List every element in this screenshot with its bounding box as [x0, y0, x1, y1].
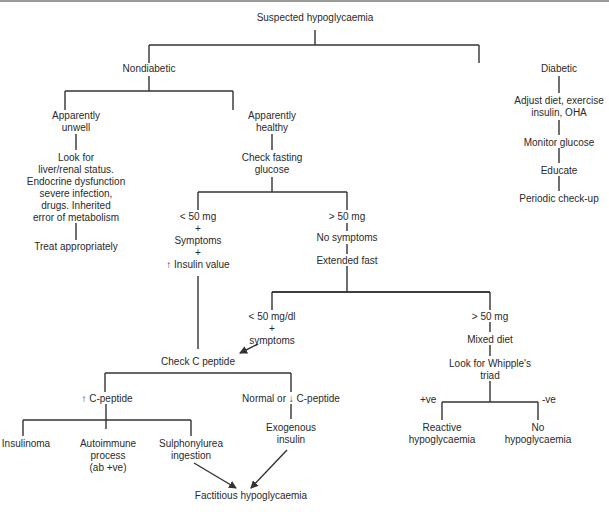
node-treat-appropriately: Treat appropriately	[34, 241, 118, 253]
node-monitor-glucose: Monitor glucose	[524, 137, 595, 149]
node-lt-50-mg-symptoms-insulin: < 50 mg + Symptoms + ↑ Insulin value	[166, 211, 229, 271]
node-exogenous-insulin: Exogenous insulin	[266, 422, 316, 446]
node-apparently-healthy: Apparently healthy	[248, 110, 296, 134]
node-lt-50-mgdl-symptoms: < 50 mg/dl + symptoms	[249, 311, 296, 347]
node-look-for: Look for liver/renal status. Endocrine d…	[27, 152, 125, 224]
node-check-c-peptide: Check C peptide	[161, 356, 235, 368]
node-sulphonylurea-ingestion: Sulphonylurea ingestion	[159, 438, 223, 462]
edge-label-negative: -ve	[542, 394, 556, 406]
node-no-hypoglycaemia: No hypoglycaemia	[505, 422, 572, 446]
edge-label-positive: +ve	[420, 394, 436, 406]
node-normal-or-low-c-peptide: Normal or ↓ C-peptide	[242, 393, 340, 405]
node-whipples-triad: Look for Whipple's triad	[449, 358, 531, 382]
node-extended-fast: Extended fast	[316, 255, 377, 267]
node-insulinoma: Insulinoma	[2, 438, 50, 450]
node-gt-50-mg: > 50 mg	[329, 211, 365, 223]
node-periodic-check-up: Periodic check-up	[519, 193, 598, 205]
node-adjust-diet: Adjust diet, exercise insulin, OHA	[514, 95, 604, 119]
node-autoimmune-process: Autoimmune process (ab +ve)	[80, 438, 136, 474]
node-apparently-unwell: Apparently unwell	[52, 110, 100, 134]
node-raised-c-peptide: ↑ C-peptide	[81, 393, 132, 405]
node-mixed-diet: Mixed diet	[467, 334, 513, 346]
node-suspected-hypoglycaemia: Suspected hypoglycaemia	[257, 12, 374, 24]
node-no-symptoms: No symptoms	[316, 232, 377, 244]
node-check-fasting-glucose: Check fasting glucose	[242, 152, 303, 176]
node-factitious-hypoglycaemia: Factitious hypoglycaemia	[195, 490, 307, 502]
node-educate: Educate	[541, 165, 578, 177]
node-reactive-hypoglycaemia: Reactive hypoglycaemia	[409, 422, 476, 446]
node-nondiabetic: Nondiabetic	[123, 63, 176, 75]
node-gt-50-mg-right: > 50 mg	[472, 311, 508, 323]
node-diabetic: Diabetic	[541, 63, 577, 75]
